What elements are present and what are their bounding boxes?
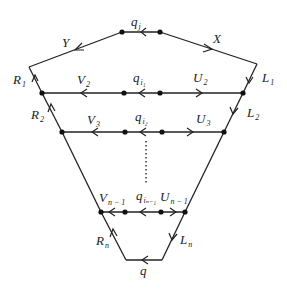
edge-Rn bbox=[101, 212, 126, 260]
label-qi1: qi₁ bbox=[133, 70, 146, 87]
label-Vn-1: Vn − 1 bbox=[99, 190, 125, 207]
edge-L1 bbox=[243, 64, 257, 93]
node bbox=[157, 90, 162, 95]
node bbox=[240, 90, 245, 95]
row-2 bbox=[39, 89, 245, 97]
node bbox=[221, 129, 226, 134]
label-V3: V3 bbox=[87, 112, 100, 129]
node bbox=[98, 209, 103, 214]
node bbox=[121, 90, 126, 95]
node bbox=[157, 29, 162, 34]
label-L1: L1 bbox=[261, 70, 274, 87]
left-side bbox=[29, 67, 126, 260]
label-Y: Y bbox=[62, 35, 71, 50]
node bbox=[39, 90, 44, 95]
node bbox=[158, 209, 163, 214]
label-X: X bbox=[212, 31, 222, 46]
label-Ln: Ln bbox=[179, 232, 192, 249]
label-L2: L2 bbox=[246, 105, 259, 122]
node bbox=[119, 29, 124, 34]
label-U2: U2 bbox=[193, 70, 207, 87]
row-n-minus-1 bbox=[98, 208, 187, 216]
edge-X bbox=[160, 32, 257, 64]
node bbox=[122, 209, 127, 214]
node bbox=[182, 209, 187, 214]
node bbox=[59, 129, 64, 134]
row-3 bbox=[59, 128, 226, 136]
label-U3: U3 bbox=[196, 111, 210, 128]
label-Un-1: Un − 1 bbox=[160, 189, 188, 206]
label-qi2: qi₂ bbox=[135, 109, 148, 126]
label-R1: R1 bbox=[12, 72, 26, 89]
node bbox=[159, 129, 164, 134]
labels: qj Y X R1 L1 V2 qi₁ U2 R2 L2 V3 qi₂ U3 V… bbox=[12, 14, 274, 278]
diagram-canvas: qj Y X R1 L1 V2 qi₁ U2 R2 L2 V3 qi₂ U3 V… bbox=[0, 0, 287, 291]
label-qj: qj bbox=[131, 14, 142, 31]
edge-R1 bbox=[29, 67, 42, 93]
label-qin-1: qiₙ₋₁ bbox=[136, 188, 156, 205]
node bbox=[122, 129, 127, 134]
label-Rn: Rn bbox=[95, 233, 109, 250]
edge-right-long bbox=[185, 132, 224, 212]
edge-R2 bbox=[42, 93, 62, 132]
label-V2: V2 bbox=[77, 72, 90, 89]
edge-left-long bbox=[62, 132, 101, 212]
label-R2: R2 bbox=[30, 107, 44, 124]
label-q-bottom: q bbox=[140, 263, 147, 278]
